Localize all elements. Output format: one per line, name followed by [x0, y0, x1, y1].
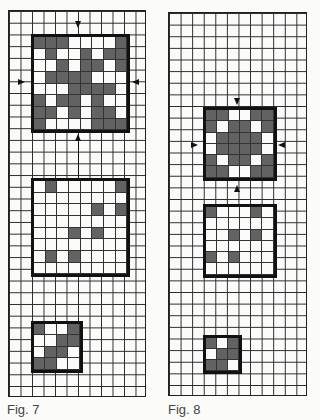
empty-cell [57, 193, 69, 205]
filled-cell [116, 60, 128, 72]
empty-cell [229, 263, 240, 274]
caption-fig-8: Fig. 8 [168, 402, 201, 417]
empty-cell [81, 181, 93, 193]
center-connector-line [78, 140, 79, 178]
empty-cell [229, 218, 240, 229]
empty-cell [46, 95, 58, 107]
empty-cell [206, 263, 217, 274]
empty-cell [206, 230, 217, 241]
empty-cell [57, 358, 68, 369]
empty-cell [240, 241, 251, 252]
empty-cell [92, 216, 104, 228]
empty-cell [57, 251, 69, 263]
empty-cell [57, 228, 69, 240]
empty-cell [81, 204, 93, 216]
empty-cell [81, 193, 93, 205]
empty-cell [46, 204, 58, 216]
empty-cell [34, 60, 46, 72]
filled-cell [92, 204, 104, 216]
filled-cell [262, 166, 273, 177]
filled-cell [262, 110, 273, 121]
filled-cell [92, 60, 104, 72]
filled-cell [240, 144, 251, 155]
empty-cell [104, 72, 116, 84]
empty-cell [206, 349, 217, 360]
empty-cell [217, 241, 228, 252]
empty-cell [34, 84, 46, 96]
empty-cell [57, 181, 69, 193]
filled-cell [92, 84, 104, 96]
empty-cell [34, 251, 46, 263]
filled-cell [45, 358, 56, 369]
filled-cell [240, 133, 251, 144]
filled-cell [46, 251, 58, 263]
filled-cell [81, 49, 93, 61]
empty-cell [46, 216, 58, 228]
empty-cell [116, 239, 128, 251]
empty-cell [57, 263, 69, 275]
empty-cell [116, 107, 128, 119]
filled-cell [262, 121, 273, 132]
empty-cell [262, 252, 273, 263]
filled-cell [34, 358, 45, 369]
empty-cell [69, 119, 81, 131]
filled-cell [34, 324, 45, 335]
empty-cell [69, 239, 81, 251]
filled-cell [34, 37, 46, 49]
empty-cell [57, 324, 68, 335]
empty-cell [116, 84, 128, 96]
empty-cell [104, 263, 116, 275]
filled-cell [206, 207, 217, 218]
pattern-block-sparse [203, 204, 277, 278]
filled-cell [217, 360, 228, 371]
empty-cell [34, 263, 46, 275]
empty-cell [217, 121, 228, 132]
filled-cell [57, 37, 69, 49]
empty-cell [34, 239, 46, 251]
empty-cell [34, 49, 46, 61]
empty-cell [262, 263, 273, 274]
empty-cell [34, 193, 46, 205]
empty-cell [104, 60, 116, 72]
empty-cell [116, 95, 128, 107]
empty-cell [34, 72, 46, 84]
pattern-block-large [31, 34, 130, 133]
empty-cell [251, 121, 262, 132]
filled-cell [206, 360, 217, 371]
empty-cell [240, 207, 251, 218]
empty-cell [57, 204, 69, 216]
filled-cell [81, 72, 93, 84]
empty-cell [34, 181, 46, 193]
filled-cell [217, 349, 228, 360]
filled-cell [251, 144, 262, 155]
empty-cell [262, 230, 273, 241]
filled-cell [69, 95, 81, 107]
filled-cell [92, 228, 104, 240]
empty-cell [69, 181, 81, 193]
filled-cell [104, 84, 116, 96]
empty-cell [104, 216, 116, 228]
empty-cell [57, 107, 69, 119]
filled-cell [240, 121, 251, 132]
filled-cell [251, 207, 262, 218]
filled-cell [92, 119, 104, 131]
empty-cell [92, 263, 104, 275]
empty-cell [69, 49, 81, 61]
empty-cell [116, 216, 128, 228]
empty-cell [57, 84, 69, 96]
filled-cell [92, 107, 104, 119]
empty-cell [217, 263, 228, 274]
filled-cell [69, 251, 81, 263]
empty-cell [46, 60, 58, 72]
filled-cell [46, 107, 58, 119]
filled-cell [116, 119, 128, 131]
empty-cell [262, 133, 273, 144]
filled-cell [229, 144, 240, 155]
empty-cell [45, 324, 56, 335]
filled-cell [206, 338, 217, 349]
empty-cell [217, 338, 228, 349]
filled-cell [217, 133, 228, 144]
filled-cell [46, 49, 58, 61]
empty-cell [81, 95, 93, 107]
filled-cell [69, 228, 81, 240]
